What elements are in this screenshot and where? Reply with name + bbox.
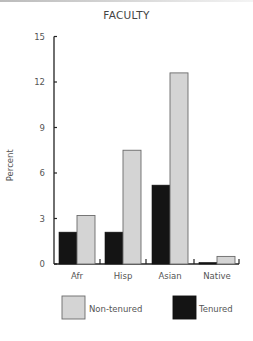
x-category-label: Hisp: [114, 271, 133, 281]
legend-swatch-tenured: [173, 296, 196, 319]
y-axis-label: Percent: [5, 149, 15, 182]
y-tick-label: 12: [34, 77, 45, 87]
bar-nontenured-asian: [170, 73, 188, 264]
y-tick-label: 9: [40, 123, 45, 133]
legend-label: Tenured: [198, 304, 233, 314]
legend-label: Non-tenured: [89, 304, 142, 314]
bar-tenured-afr: [59, 232, 77, 264]
bar-nontenured-hisp: [123, 150, 141, 264]
bar-tenured-asian: [152, 185, 170, 264]
bar-tenured-native: [199, 262, 217, 264]
bar-nontenured-native: [217, 256, 235, 264]
bar-chart: 03691215PercentAfrHispAsianNativeNon-ten…: [0, 0, 253, 341]
x-category-label: Afr: [71, 271, 84, 281]
y-tick-label: 3: [40, 214, 45, 224]
y-tick-label: 15: [34, 32, 45, 42]
x-category-label: Asian: [158, 271, 181, 281]
y-tick-label: 6: [40, 168, 45, 178]
bar-nontenured-afr: [77, 215, 95, 264]
legend-swatch-non-tenured: [62, 296, 85, 319]
bar-tenured-hisp: [105, 232, 123, 264]
y-tick-label: 0: [40, 259, 45, 269]
x-category-label: Native: [203, 271, 231, 281]
